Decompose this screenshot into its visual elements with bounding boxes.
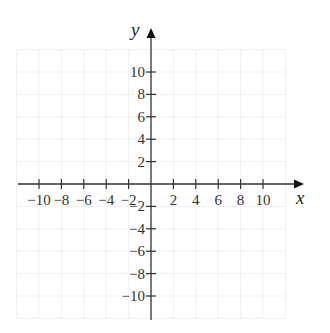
- y-axis-arrow-icon: [147, 28, 156, 38]
- y-axis-label: y: [129, 19, 140, 40]
- y-tick-label: −8: [129, 266, 145, 282]
- x-tick-label: −6: [76, 192, 92, 208]
- x-tick-label: −4: [98, 192, 114, 208]
- y-tick-label: −4: [129, 221, 145, 237]
- y-tick-label: 4: [138, 131, 146, 147]
- x-tick-label: 4: [192, 192, 200, 208]
- x-tick-label: −8: [53, 192, 69, 208]
- x-axis-label: x: [295, 187, 305, 208]
- y-tick-label: 10: [130, 64, 145, 80]
- y-tick-label: −6: [129, 243, 145, 259]
- y-tick-label: 2: [138, 154, 146, 170]
- y-tick-label: 6: [138, 109, 146, 125]
- y-tick-label: 8: [138, 86, 146, 102]
- x-tick-label: 2: [170, 192, 178, 208]
- x-tick-label: −10: [27, 192, 50, 208]
- x-tick-label: 6: [214, 192, 222, 208]
- y-tick-label: −10: [122, 288, 145, 304]
- coordinate-plane: −10−8−6−4−2246810 108642−2−4−6−8−10 x y: [0, 0, 330, 333]
- y-tick-label: −2: [129, 198, 145, 214]
- x-tick-label: 10: [256, 192, 271, 208]
- x-tick-label: 8: [237, 192, 245, 208]
